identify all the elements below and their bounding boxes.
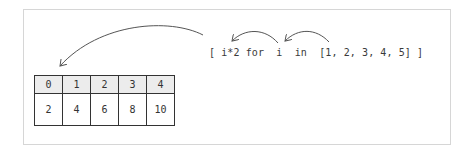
value-cell: 2 [35, 94, 63, 126]
result-array-table: 0 1 2 3 4 2 4 6 8 10 [34, 75, 175, 126]
value-cell: 10 [147, 94, 175, 126]
value-cell: 6 [91, 94, 119, 126]
index-cell: 1 [63, 76, 91, 94]
index-cell: 2 [91, 76, 119, 94]
index-cell: 0 [35, 76, 63, 94]
value-cell: 8 [119, 94, 147, 126]
index-row: 0 1 2 3 4 [35, 76, 175, 94]
value-cell: 4 [63, 94, 91, 126]
index-cell: 3 [119, 76, 147, 94]
list-comprehension-code: [ i*2 for i in [1, 2, 3, 4, 5] ] [209, 47, 423, 59]
value-row: 2 4 6 8 10 [35, 94, 175, 126]
index-cell: 4 [147, 76, 175, 94]
